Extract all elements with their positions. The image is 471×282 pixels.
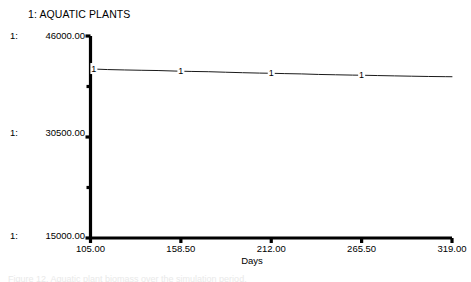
series-markers: 1111 xyxy=(90,63,365,80)
series-marker-3: 1 xyxy=(359,70,364,80)
axes xyxy=(86,36,453,243)
series-marker-2: 1 xyxy=(269,68,274,78)
series-marker-1: 1 xyxy=(178,66,183,76)
series-marker-0: 1 xyxy=(91,64,96,74)
